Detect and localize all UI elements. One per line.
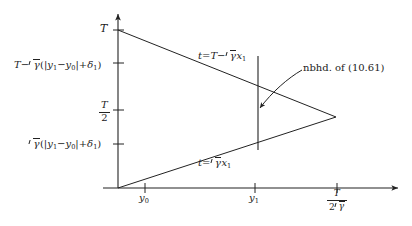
axis-label-y1: y1 (249, 193, 259, 204)
line-label-lower: t=γx1 (198, 156, 231, 169)
annotation-nbhd-label: nbhd. of (10.61) (303, 63, 384, 73)
axis-label-T-minus-sqrt: T−γ(|y1−y0|+δ1) (14, 58, 101, 71)
line-lower-characteristic (118, 117, 336, 188)
axis-label-sqrt-delta: γ(|y1−y0|+δ1) (29, 137, 101, 150)
annotation-reference: (10.61) (348, 62, 384, 73)
diagram-graphics (0, 0, 412, 226)
annotation-prefix: nbhd. (303, 62, 332, 73)
axis-label-y0: y0 (139, 193, 149, 204)
line-upper-characteristic (118, 30, 336, 117)
axis-label-T-over-2-sqrt-gamma: T2γ (327, 190, 347, 213)
axis-label-T: T (100, 23, 107, 34)
line-label-upper: t=T−γx1 (198, 49, 246, 62)
annotation-middle: of (335, 62, 345, 73)
figure-canvas: T T−γ(|y1−y0|+δ1) T2 γ(|y1−y0|+δ1) y0 y1… (0, 0, 412, 226)
axis-label-T-half: T2 (99, 101, 110, 124)
